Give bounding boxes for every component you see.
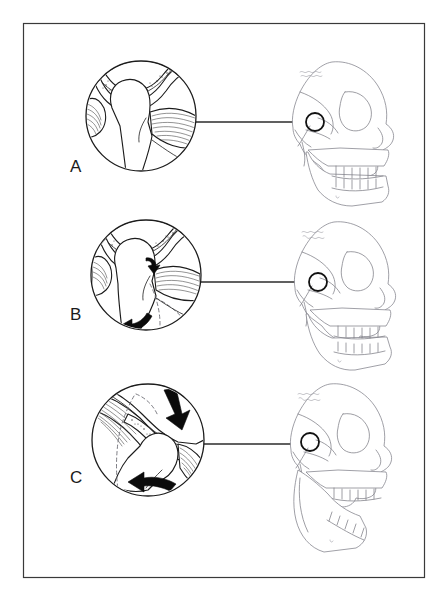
tmj-figure-svg: A [0,0,447,598]
figure-root: A [0,0,447,598]
panel-label-b: B [70,305,81,324]
panel-label-a: A [70,157,82,176]
panel-label-c: C [70,468,82,487]
detail-circle-c [92,384,204,496]
